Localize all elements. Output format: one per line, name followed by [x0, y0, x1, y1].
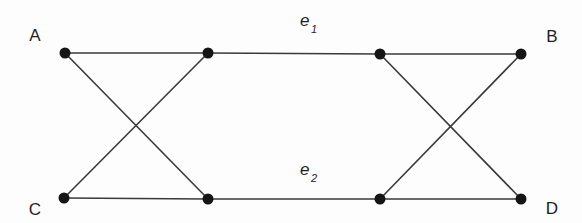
vertex-C-dot-icon: [59, 193, 70, 204]
edge-label-subscript: 1: [311, 23, 317, 35]
edge-label-e1: e: [300, 11, 309, 30]
edges-group: [64, 53, 521, 199]
vertex-n2-dot-icon: [203, 48, 214, 59]
edge-n2-n3: [208, 53, 380, 54]
labels-group: e1e2ABCD: [29, 11, 558, 219]
vertex-A-dot-icon: [60, 48, 71, 59]
vertex-label-B: B: [546, 27, 557, 46]
vertex-label-D: D: [546, 199, 558, 218]
vertex-B-dot-icon: [516, 49, 527, 60]
edge-label-e2: e: [300, 160, 309, 179]
vertex-label-A: A: [29, 26, 41, 45]
vertex-n6-dot-icon: [203, 194, 214, 205]
vertex-n7-dot-icon: [375, 194, 386, 205]
vertices-group: [59, 48, 527, 205]
vertex-n3-dot-icon: [375, 49, 386, 60]
graph-diagram: e1e2ABCD: [0, 0, 582, 223]
edge-label-subscript: 2: [310, 172, 317, 184]
vertex-label-C: C: [29, 200, 41, 219]
vertex-D-dot-icon: [516, 194, 527, 205]
edge-C-n6: [64, 198, 208, 199]
